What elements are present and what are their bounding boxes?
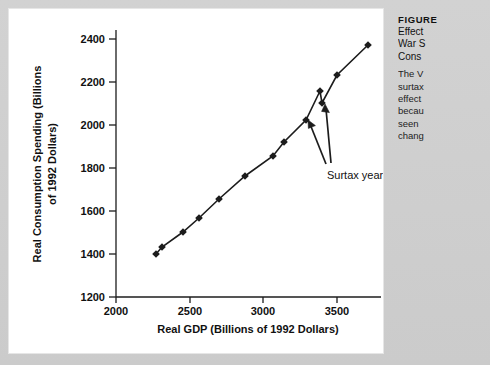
y-ticklabel-1600: 1600 [81,205,105,217]
figure-body-line-3: effect [398,93,490,105]
surtax-years-label: Surtax years [327,169,383,181]
y-ticklabel-1800: 1800 [81,162,105,174]
x-ticklabel-3000: 3000 [251,305,275,317]
surtax-annotation-arrows [308,104,331,164]
y-ticklabel-1200: 1200 [81,291,105,303]
data-markers [152,41,372,258]
chart-plot-area: 1200 1400 1600 1800 2000 2200 2400 2000 … [9,9,383,353]
figure-number-label: FIGURE [398,14,490,26]
x-axis-title: Real GDP (Billions of 1992 Dollars) [157,323,339,335]
figure-title-line-2: War S [398,38,490,50]
surtax-arrow-line-2 [326,109,331,163]
figure-body-line-1: The V [398,68,490,80]
y-ticklabel-2400: 2400 [81,33,105,45]
y-axis-ticks: 1200 1400 1600 1800 2000 2200 2400 [81,33,116,303]
figure-body-line-4: becau [398,105,490,117]
y-ticklabel-2000: 2000 [81,119,105,131]
figure-panel: 1200 1400 1600 1800 2000 2200 2400 2000 … [9,9,383,353]
x-ticklabel-2000: 2000 [104,305,128,317]
y-ticklabel-1400: 1400 [81,248,105,260]
surtax-arrowhead-1 [308,120,315,128]
figure-body-line-5: seen [398,118,490,130]
y-axis-title-line2: of 1992 Dollars) [46,123,58,205]
consumption-gdp-line-chart: 1200 1400 1600 1800 2000 2200 2400 2000 … [9,9,383,353]
page-background: 1200 1400 1600 1800 2000 2200 2400 2000 … [0,0,490,365]
figure-body-line-2: surtax [398,81,490,93]
figure-caption: FIGURE Effect War S Cons The V surtax ef… [398,14,490,143]
data-point [316,87,324,95]
x-ticklabel-3500: 3500 [325,305,349,317]
figure-body-line-6: chang [398,130,490,142]
surtax-arrow-line-1 [310,124,326,164]
figure-body-text: The V surtax effect becau seen chang [398,68,490,142]
figure-title-line-1: Effect [398,26,490,38]
y-ticklabel-2200: 2200 [81,76,105,88]
figure-title-line-3: Cons [398,51,490,63]
x-axis-ticks: 2000 2500 3000 3500 4000 [104,297,383,317]
y-axis-title-line1: Real Consumption Spending (Billions [31,66,43,263]
x-ticklabel-2500: 2500 [178,305,202,317]
